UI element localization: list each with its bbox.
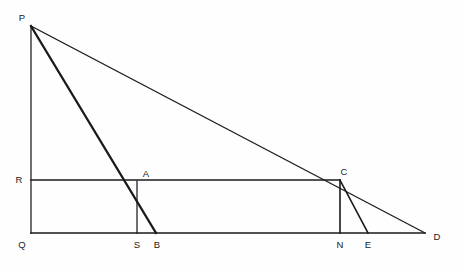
vertex-label-a: A xyxy=(143,168,150,179)
segments-group xyxy=(31,26,425,233)
vertex-label-n: N xyxy=(336,239,343,250)
geometry-canvas: PQRASBCNED xyxy=(0,0,462,269)
segment-pd xyxy=(31,26,425,233)
vertex-label-d: D xyxy=(433,231,440,242)
vertex-label-s: S xyxy=(134,239,141,250)
vertex-label-p: P xyxy=(19,12,26,23)
vertex-label-q: Q xyxy=(18,239,26,250)
segment-ce xyxy=(340,180,368,233)
geometry-diagram: PQRASBCNED xyxy=(0,0,462,269)
vertex-label-r: R xyxy=(15,174,22,185)
vertex-labels-group: PQRASBCNED xyxy=(15,12,440,250)
vertex-label-c: C xyxy=(340,166,347,177)
vertex-label-b: B xyxy=(154,239,161,250)
vertex-label-e: E xyxy=(365,239,372,250)
